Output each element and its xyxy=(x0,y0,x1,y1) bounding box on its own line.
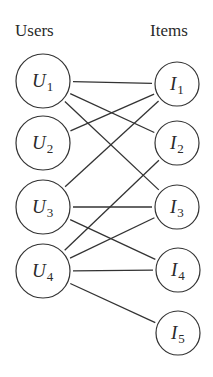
edge-u1-i3 xyxy=(65,102,159,190)
nodes-layer: U1U2U3U4I1I2I3I4I5 xyxy=(16,54,200,355)
users-header: Users xyxy=(15,21,54,40)
edge-u4-i3 xyxy=(70,218,154,258)
edge-u3-i4 xyxy=(70,220,155,260)
item-node-i4: I4 xyxy=(156,248,200,292)
items-header: Items xyxy=(150,21,188,40)
item-node-i1: I1 xyxy=(155,62,199,106)
item-node-i3: I3 xyxy=(155,185,199,229)
edge-u1-i1 xyxy=(73,82,152,84)
item-node-i2: I2 xyxy=(155,121,199,165)
edge-u4-i5 xyxy=(70,284,155,323)
bipartite-graph: Users Items U1U2U3U4I1I2I3I4I5 xyxy=(0,0,213,377)
edge-u4-i4 xyxy=(73,270,153,271)
user-node-u4: U4 xyxy=(16,244,70,298)
user-node-u1: U1 xyxy=(16,54,70,108)
item-node-i5: I5 xyxy=(156,311,200,355)
user-node-u2: U2 xyxy=(16,116,70,170)
user-node-u3: U3 xyxy=(16,180,70,234)
edges-layer xyxy=(65,82,159,323)
